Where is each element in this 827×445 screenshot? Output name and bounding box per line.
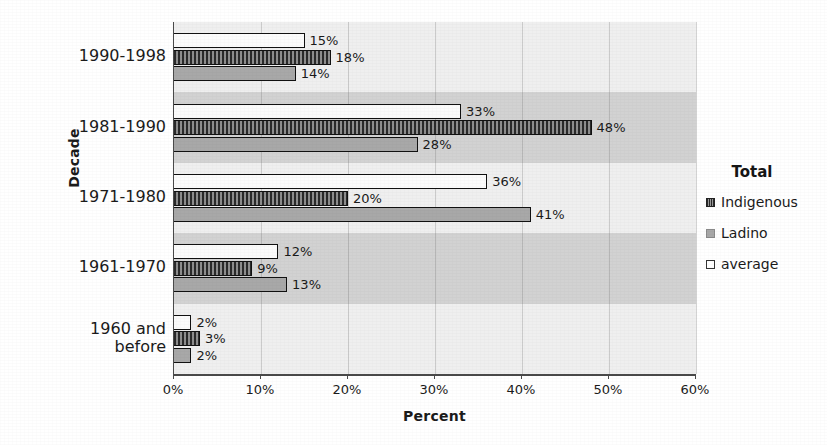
gridline: [522, 22, 523, 374]
gridline: [609, 22, 610, 374]
bar-average-3: [174, 244, 278, 259]
plot-area: 15%18%14%33%48%28%36%20%41%12%9%13%2%3%2…: [173, 22, 696, 374]
x-axis-tick-label: 30%: [404, 382, 464, 397]
gridline: [435, 22, 436, 374]
x-axis-title: Percent: [173, 408, 696, 424]
x-axis-tick-label: 40%: [491, 382, 551, 397]
x-axis-tick-label: 20%: [317, 382, 377, 397]
legend-swatch-icon: [706, 260, 715, 269]
legend-item-label: Ladino: [721, 225, 768, 241]
bar-average-1: [174, 104, 461, 119]
x-axis-tick: [260, 374, 261, 379]
bar-value-label: 9%: [257, 262, 278, 275]
x-axis-tick: [173, 374, 174, 379]
bar-ladino-2: [174, 207, 531, 222]
chart-legend: Total IndigenousLadinoaverage: [706, 163, 822, 287]
bar-value-label: 48%: [597, 121, 626, 134]
bar-ladino-4: [174, 348, 191, 363]
bar-value-label: 12%: [283, 245, 312, 258]
x-axis-tick: [434, 374, 435, 379]
bar-indigenous-2: [174, 191, 348, 206]
legend-item-label: average: [721, 256, 778, 272]
bar-value-label: 13%: [292, 278, 321, 291]
x-axis-tick-label: 0%: [143, 382, 203, 397]
y-axis-tick-label: 1960 and before: [40, 320, 166, 356]
bar-ladino-0: [174, 66, 296, 81]
bar-indigenous-0: [174, 50, 331, 65]
chart-figure: Decade 1990-19981981-19901971-19801961-1…: [0, 0, 827, 445]
bar-average-0: [174, 33, 305, 48]
x-axis-tick: [521, 374, 522, 379]
gridline: [348, 22, 349, 374]
bar-value-label: 28%: [423, 138, 452, 151]
x-axis-tick-label: 10%: [230, 382, 290, 397]
x-axis-tick-label: 50%: [578, 382, 638, 397]
legend-title: Total: [706, 163, 798, 181]
bar-average-2: [174, 174, 487, 189]
y-axis-tick-label: 1981-1990: [40, 118, 166, 136]
bar-value-label: 36%: [492, 175, 521, 188]
plot-inner: 15%18%14%33%48%28%36%20%41%12%9%13%2%3%2…: [174, 22, 696, 374]
legend-item-average[interactable]: average: [706, 256, 822, 272]
legend-item-label: Indigenous: [721, 194, 798, 210]
legend-swatch-icon: [706, 198, 715, 207]
x-axis-tick: [347, 374, 348, 379]
legend-item-indigenous[interactable]: Indigenous: [706, 194, 822, 210]
bar-ladino-3: [174, 277, 287, 292]
bar-value-label: 15%: [310, 34, 339, 47]
bar-value-label: 2%: [196, 349, 217, 362]
x-axis-tick: [695, 374, 696, 379]
bar-value-label: 18%: [336, 51, 365, 64]
y-axis-tick-label: 1990-1998: [40, 47, 166, 65]
bar-value-label: 14%: [301, 67, 330, 80]
bar-average-4: [174, 315, 191, 330]
y-axis-tick-label: 1961-1970: [40, 258, 166, 276]
gridline: [696, 22, 697, 374]
bar-indigenous-4: [174, 331, 200, 346]
bar-value-label: 41%: [536, 208, 565, 221]
legend-swatch-icon: [706, 229, 715, 238]
bar-value-label: 33%: [466, 105, 495, 118]
legend-item-ladino[interactable]: Ladino: [706, 225, 822, 241]
bar-indigenous-3: [174, 261, 252, 276]
bar-value-label: 20%: [353, 192, 382, 205]
x-axis-tick: [608, 374, 609, 379]
bar-value-label: 3%: [205, 332, 226, 345]
x-axis-tick-label: 60%: [665, 382, 725, 397]
y-axis-tick-label: 1971-1980: [40, 188, 166, 206]
bar-ladino-1: [174, 137, 418, 152]
bar-value-label: 2%: [196, 316, 217, 329]
legend-items: IndigenousLadinoaverage: [706, 194, 822, 272]
bar-indigenous-1: [174, 120, 592, 135]
